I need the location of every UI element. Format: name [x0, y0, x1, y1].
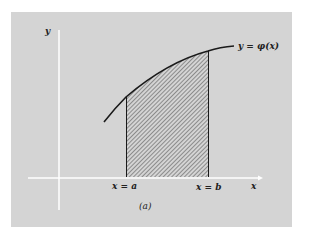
- x-axis-arrow-icon: [258, 176, 263, 181]
- lower-limit-label: x = a: [112, 181, 137, 191]
- curve-label: y = φ(x): [238, 41, 279, 51]
- upper-limit-label: x = b: [196, 182, 221, 192]
- x-axis-label: x: [251, 181, 256, 191]
- y-axis-label: y: [45, 26, 50, 36]
- shaded-area: [126, 40, 208, 178]
- figure-caption: (a): [139, 201, 151, 211]
